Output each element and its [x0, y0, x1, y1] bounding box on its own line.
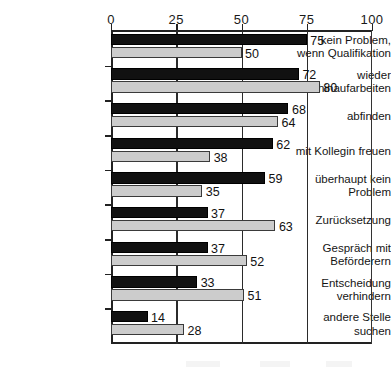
bar-group: 6864: [111, 100, 372, 135]
bar: [111, 185, 202, 197]
bar-group: 3752: [111, 239, 372, 274]
bar-group: 3763: [111, 204, 372, 239]
x-tickmark-100: [372, 24, 373, 31]
bar: [111, 289, 244, 301]
bar-group: 5935: [111, 170, 372, 205]
bar-value-label: 28: [188, 325, 202, 338]
bar-value-label: 75: [310, 35, 324, 48]
bar-group: 1428: [111, 308, 372, 343]
bar-group: 7550: [111, 31, 372, 66]
bar-value-label: 68: [292, 104, 306, 117]
bar: [111, 116, 278, 128]
bar-group: 7280: [111, 66, 372, 101]
x-tickmark-0: [111, 24, 112, 31]
bar: [111, 276, 197, 288]
bar: [111, 138, 273, 150]
bar: [111, 207, 208, 219]
bar-value-label: 62: [276, 139, 290, 152]
bar-value-label: 63: [279, 221, 293, 234]
bar: [111, 81, 320, 93]
bar: [111, 34, 307, 46]
bar-value-label: 59: [268, 173, 282, 186]
bar-value-label: 38: [214, 152, 228, 165]
bar: [111, 220, 275, 232]
bar: [111, 172, 265, 184]
bar-chart: 0255075100 kein Problem, wenn Qualifikat…: [0, 0, 391, 372]
bar-value-label: 52: [250, 256, 264, 269]
bar-group: 6238: [111, 135, 372, 170]
bar-value-label: 37: [211, 208, 225, 221]
bar: [111, 242, 208, 254]
bar-value-label: 33: [201, 277, 215, 290]
bar-value-label: 50: [245, 48, 259, 61]
bar: [111, 324, 184, 336]
bar-value-label: 72: [302, 69, 316, 82]
bar-value-label: 51: [248, 290, 262, 303]
x-tickmark-50: [242, 24, 243, 31]
x-tickmark-75: [307, 24, 308, 31]
bar-value-label: 35: [206, 186, 220, 199]
bar: [111, 255, 247, 267]
bar: [111, 47, 242, 59]
bar: [111, 68, 299, 80]
bar-value-label: 37: [211, 243, 225, 256]
plot-area: 755072806864623859353763375233511428: [111, 31, 372, 343]
bar-value-label: 80: [323, 82, 337, 95]
bar: [111, 311, 148, 323]
x-tickmark-25: [176, 24, 177, 31]
cropped-legend-remnant: [186, 360, 356, 368]
bar: [111, 103, 288, 115]
bar-value-label: 64: [282, 117, 296, 130]
bar-group: 3351: [111, 274, 372, 309]
bar-value-label: 14: [151, 312, 165, 325]
bar: [111, 151, 210, 163]
